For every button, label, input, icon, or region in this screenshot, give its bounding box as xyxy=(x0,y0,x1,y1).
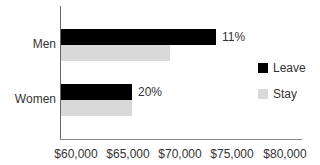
x-tick-80000: $80,000 xyxy=(255,147,315,161)
legend-item-stay: Stay xyxy=(258,87,297,101)
x-tick-75000: $75,000 xyxy=(202,147,262,161)
x-tick-70000: $70,000 xyxy=(150,147,210,161)
x-axis-line xyxy=(60,139,302,140)
y-axis-line xyxy=(60,6,61,139)
legend-swatch-leave xyxy=(258,63,268,73)
bar-men-leave xyxy=(61,29,216,45)
bar-men-stay xyxy=(61,45,170,61)
legend-item-leave: Leave xyxy=(258,61,306,75)
salary-bar-chart: Men Women 11% 20% $60,000 $65,000 $70,00… xyxy=(0,0,320,165)
x-tick-60000: $60,000 xyxy=(46,147,106,161)
legend-label-stay: Stay xyxy=(273,87,297,101)
annotation-women-leave: 20% xyxy=(138,85,162,99)
annotation-men-leave: 11% xyxy=(222,30,245,44)
legend-swatch-stay xyxy=(258,89,268,99)
legend-label-leave: Leave xyxy=(273,61,306,75)
category-label-men: Men xyxy=(2,37,56,51)
category-label-women: Women xyxy=(2,92,56,106)
bar-women-stay xyxy=(61,100,132,116)
bar-women-leave xyxy=(61,84,132,100)
x-tick-65000: $65,000 xyxy=(98,147,158,161)
